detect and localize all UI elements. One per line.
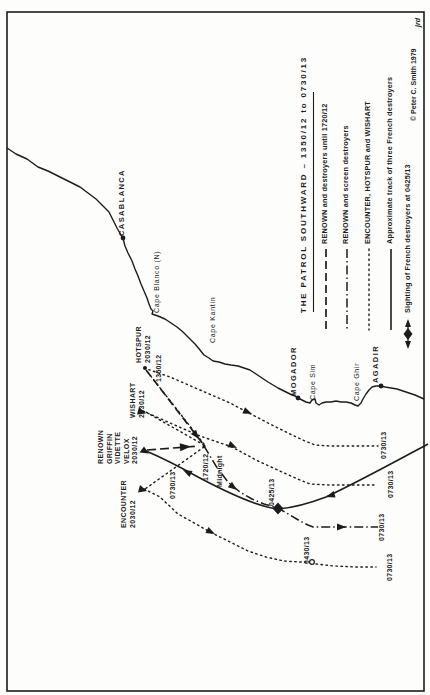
label-time-0730-encounter: 0730/13 bbox=[386, 554, 395, 581]
label-time-0425: 0425/13 bbox=[268, 479, 277, 506]
engraver-initials: jrd bbox=[414, 18, 423, 27]
label-time-0730-french: 0730/13 bbox=[169, 472, 178, 499]
track-encounter bbox=[138, 447, 376, 567]
track-hotspur bbox=[144, 368, 378, 446]
label-agadir: AGADIR bbox=[372, 345, 381, 383]
label-mogador: MOGADOR bbox=[290, 346, 299, 396]
label-cape-kantin: Cape Kantin bbox=[209, 297, 218, 343]
label-time-1350: 1350/12 bbox=[155, 355, 164, 382]
label-time-1720: 1720/12 bbox=[202, 454, 211, 481]
velox-name: VELOX bbox=[123, 430, 132, 464]
griffin-name: GRIFFIN bbox=[106, 430, 115, 464]
hotspur-time: 2030/12 bbox=[144, 326, 153, 363]
label-cape-ghir: Cape Ghir bbox=[353, 363, 362, 401]
label-cape-sim: Cape Sim bbox=[309, 364, 318, 400]
renown-group-time: 2030/12 bbox=[131, 430, 140, 464]
label-time-0730-wishart: 0730/13 bbox=[387, 471, 396, 498]
label-cape-blanco: Cape Blanco (N) bbox=[153, 251, 162, 313]
track-renown-until-1720 bbox=[143, 366, 206, 448]
legend-sighting-label: Sighting of French destroyers at 0425/13 bbox=[404, 164, 413, 313]
label-time-0730-renown: 0730/13 bbox=[378, 514, 387, 541]
copyright-credit: © Peter C. Smith 1979 bbox=[410, 49, 419, 121]
wishart-name: WISHART bbox=[129, 383, 138, 418]
map-border bbox=[7, 12, 424, 691]
encounter-name: ENCOUNTER bbox=[120, 480, 129, 528]
legend-title: THE PATROL SOUTHWARD – 1350/12 to 0730/1… bbox=[300, 56, 309, 313]
legend-entry-patrol-destroyers: ENCOUNTER, HOTSPUR and WISHART bbox=[364, 101, 373, 244]
legend-entry-renown-destroyers: RENOWN and destroyers until 1720/12 bbox=[321, 104, 330, 244]
casablanca-dot bbox=[121, 236, 126, 241]
renown-name: RENOWN bbox=[97, 430, 106, 464]
label-renown-group: RENOWN GRIFFIN VIDETTE VELOX 2030/12 bbox=[97, 430, 140, 464]
legend-entry-french-track: Approximate track of three French destro… bbox=[386, 77, 395, 244]
label-hotspur: HOTSPUR 2030/12 bbox=[135, 326, 152, 363]
label-casablanca: CASABLANCA bbox=[118, 169, 127, 236]
mogador-dot bbox=[296, 396, 301, 401]
hotspur-name: HOTSPUR bbox=[135, 326, 144, 363]
encounter-time: 2030/12 bbox=[129, 480, 138, 528]
label-time-0730-hotspur: 0730/13 bbox=[380, 432, 389, 459]
agadir-dot bbox=[379, 384, 384, 389]
chart-page: CASABLANCA Cape Blanco (N) Cape Kantin M… bbox=[0, 0, 430, 695]
legend-entry-renown-screen: RENOWN and screen destroyers bbox=[342, 125, 351, 244]
label-wishart: WISHART 2030/12 bbox=[129, 383, 146, 418]
track-renown-screen bbox=[204, 446, 378, 530]
vidette-name: VIDETTE bbox=[114, 430, 123, 464]
label-midnight: Midnight bbox=[216, 455, 225, 487]
wishart-time: 2030/12 bbox=[138, 383, 147, 418]
label-time-0430: 0430/13 bbox=[303, 537, 312, 564]
label-encounter: ENCOUNTER 2030/12 bbox=[120, 480, 137, 528]
